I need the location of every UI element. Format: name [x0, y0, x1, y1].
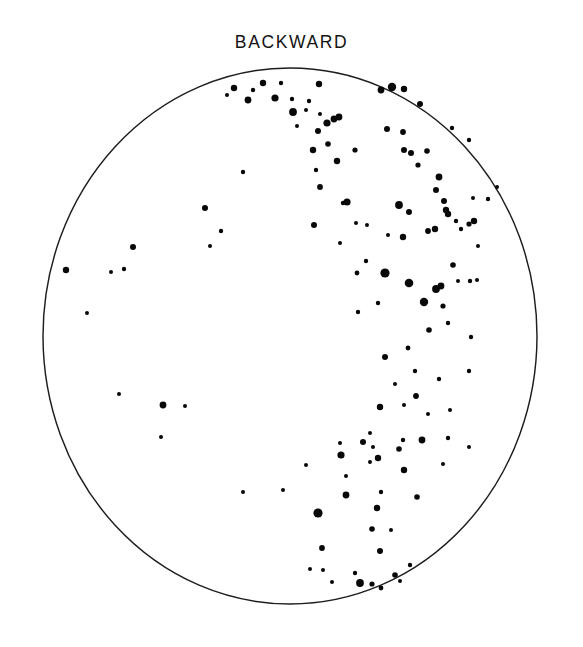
- data-point: [330, 580, 334, 584]
- data-point: [319, 545, 325, 551]
- data-point: [459, 227, 463, 231]
- plot-boundary-circle: [43, 68, 537, 604]
- data-point: [433, 187, 439, 193]
- data-points-layer: [63, 80, 499, 591]
- data-point: [360, 439, 366, 445]
- data-point: [446, 436, 450, 440]
- data-point: [382, 354, 388, 360]
- data-point: [289, 108, 297, 116]
- data-point: [379, 586, 384, 591]
- data-point: [466, 221, 471, 226]
- data-point: [400, 129, 406, 135]
- data-point: [441, 198, 447, 204]
- data-point: [355, 271, 360, 276]
- data-point: [160, 402, 167, 409]
- data-point: [308, 567, 312, 571]
- data-point: [377, 404, 383, 410]
- data-point: [251, 88, 255, 92]
- data-point: [454, 219, 458, 223]
- data-point: [225, 93, 229, 97]
- data-point: [315, 128, 321, 134]
- data-point: [117, 392, 121, 396]
- data-point: [432, 285, 440, 293]
- data-point: [450, 262, 456, 268]
- data-point: [414, 494, 420, 500]
- data-point: [365, 223, 369, 227]
- data-point: [424, 148, 430, 154]
- data-point: [338, 441, 342, 445]
- data-point: [413, 393, 419, 399]
- data-point: [304, 108, 308, 112]
- data-point: [376, 301, 380, 305]
- data-point: [368, 460, 372, 464]
- data-point: [338, 241, 342, 245]
- data-point: [441, 462, 445, 466]
- data-point: [271, 94, 278, 101]
- data-point: [486, 197, 490, 201]
- data-point: [344, 474, 348, 478]
- data-point: [109, 270, 113, 274]
- data-point: [425, 228, 431, 234]
- data-point: [356, 579, 364, 587]
- data-point: [310, 147, 316, 153]
- data-point: [260, 80, 266, 86]
- data-point: [471, 218, 477, 224]
- data-point: [311, 222, 317, 228]
- data-point: [364, 259, 368, 263]
- data-point: [369, 581, 374, 586]
- data-point: [415, 162, 420, 167]
- data-point: [395, 201, 403, 209]
- plot-canvas: [0, 0, 583, 647]
- data-point: [448, 408, 452, 412]
- data-point: [420, 298, 428, 306]
- data-point: [401, 467, 407, 473]
- data-point: [440, 303, 445, 308]
- data-point: [384, 126, 390, 132]
- data-point: [471, 196, 475, 200]
- data-point: [456, 279, 460, 283]
- data-point: [468, 279, 472, 283]
- data-point: [469, 335, 473, 339]
- data-point: [413, 369, 417, 373]
- data-point: [314, 168, 318, 172]
- data-point: [374, 505, 380, 511]
- data-point: [380, 268, 389, 277]
- data-point: [432, 226, 438, 232]
- data-point: [398, 579, 402, 583]
- data-point: [436, 174, 443, 181]
- data-point: [371, 445, 375, 449]
- data-point: [356, 310, 360, 314]
- data-point: [467, 138, 471, 142]
- data-point: [321, 568, 325, 572]
- data-point: [307, 99, 311, 103]
- data-point: [401, 147, 407, 153]
- data-point: [279, 81, 283, 85]
- data-point: [336, 114, 343, 121]
- data-point: [386, 233, 390, 237]
- data-point: [323, 119, 330, 126]
- data-point: [159, 435, 163, 439]
- data-point: [241, 170, 245, 174]
- data-point: [388, 83, 396, 91]
- data-point: [63, 267, 69, 273]
- data-point: [183, 404, 187, 408]
- data-point: [368, 431, 372, 435]
- data-point: [495, 185, 499, 189]
- data-point: [392, 572, 398, 578]
- data-point: [400, 234, 406, 240]
- data-point: [343, 492, 350, 499]
- data-point: [446, 321, 450, 325]
- data-point: [130, 244, 136, 250]
- data-point: [445, 211, 451, 217]
- data-point: [343, 198, 350, 205]
- data-point: [401, 86, 407, 92]
- data-point: [437, 377, 441, 381]
- data-point: [334, 158, 340, 164]
- data-point: [476, 244, 480, 248]
- data-point: [406, 209, 412, 215]
- data-point: [245, 97, 252, 104]
- data-point: [402, 403, 406, 407]
- data-point: [426, 412, 430, 416]
- data-point: [379, 490, 383, 494]
- data-point: [231, 85, 237, 91]
